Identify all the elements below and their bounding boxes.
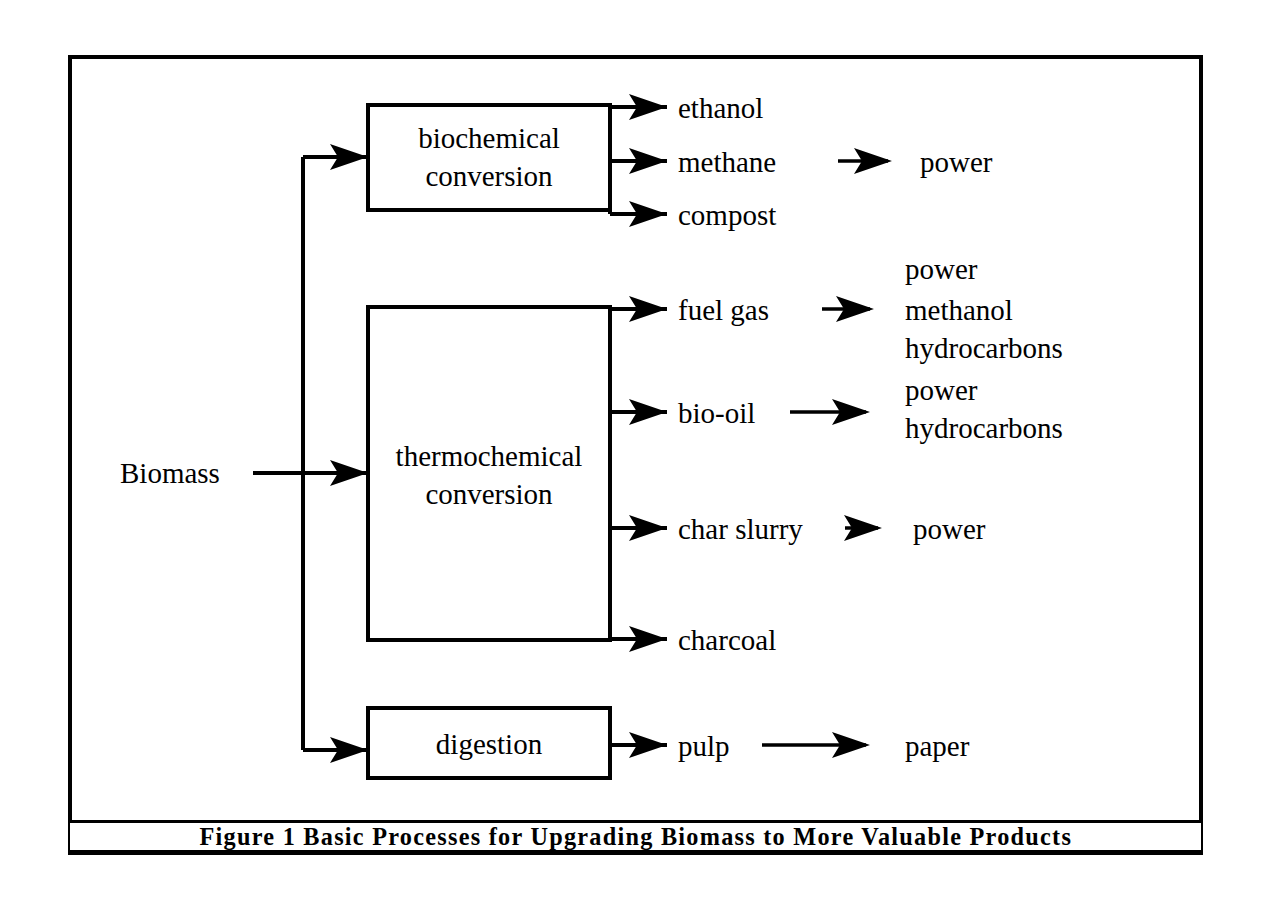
product-label-fuel-gas: fuel gas xyxy=(678,294,769,326)
downstream-label-biooil-power: power xyxy=(905,374,978,406)
product-label-char-slurry: char slurry xyxy=(678,513,803,545)
process-label-thermochemical-line2: conversion xyxy=(425,478,553,510)
figure-caption-band: Figure 1 Basic Processes for Upgrading B… xyxy=(70,820,1201,853)
downstream-label-methane-power: power xyxy=(920,146,993,178)
downstream-label-fuelgas-methanol: methanol xyxy=(905,294,1013,326)
process-label-biochemical-line1: biochemical xyxy=(418,122,560,154)
figure-root: Biomass biochemical conversion ethanol m… xyxy=(0,0,1270,905)
product-label-ethanol: ethanol xyxy=(678,92,763,124)
downstream-label-pulp-paper: paper xyxy=(905,730,970,762)
product-label-methane: methane xyxy=(678,146,776,178)
product-label-compost: compost xyxy=(678,199,776,231)
downstream-label-fuelgas-hydrocarbons: hydrocarbons xyxy=(905,332,1063,364)
process-label-biochemical-line2: conversion xyxy=(425,160,553,192)
product-label-pulp: pulp xyxy=(678,730,730,762)
figure-caption-text: Figure 1 Basic Processes for Upgrading B… xyxy=(199,824,1072,849)
input-label-biomass: Biomass xyxy=(120,457,220,489)
figure-frame xyxy=(70,57,1201,853)
product-label-bio-oil: bio-oil xyxy=(678,397,755,429)
process-label-thermochemical-line1: thermochemical xyxy=(396,440,583,472)
process-box-biochemical[interactable] xyxy=(368,105,610,210)
downstream-label-charslurry-power: power xyxy=(913,513,986,545)
process-flow-diagram: Biomass biochemical conversion ethanol m… xyxy=(0,0,1270,905)
product-label-charcoal: charcoal xyxy=(678,624,776,656)
downstream-label-fuelgas-power: power xyxy=(905,253,978,285)
downstream-label-biooil-hydrocarbons: hydrocarbons xyxy=(905,412,1063,444)
process-label-digestion: digestion xyxy=(436,728,543,760)
process-box-thermochemical[interactable] xyxy=(368,307,610,640)
